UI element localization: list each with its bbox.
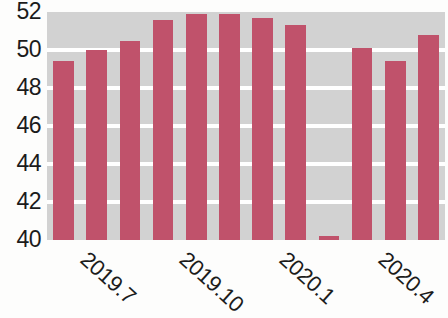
plot-area	[47, 12, 445, 240]
bar	[120, 41, 141, 241]
x-axis: 2019.72019.102020.12020.4	[47, 240, 445, 318]
bar	[219, 14, 240, 240]
bar	[385, 61, 406, 240]
y-axis-tick-label: 52	[0, 0, 41, 23]
y-axis-tick-label: 50	[0, 38, 41, 61]
bar	[252, 18, 273, 240]
y-axis: 40424446485052	[0, 0, 44, 318]
bar	[153, 20, 174, 240]
y-axis-tick-label: 44	[0, 152, 41, 175]
y-axis-tick-label: 42	[0, 190, 41, 213]
x-axis-tick-label: 2020.1	[275, 248, 338, 308]
x-axis-tick-label: 2019.10	[176, 248, 248, 316]
bar	[352, 48, 373, 240]
bar-series	[47, 12, 445, 240]
y-axis-tick-label: 48	[0, 76, 41, 99]
bar-chart-figure: 40424446485052 2019.72019.102020.12020.4	[0, 0, 448, 318]
y-axis-tick-label: 40	[0, 228, 41, 251]
y-axis-tick-label: 46	[0, 114, 41, 137]
bar	[285, 25, 306, 240]
bar	[186, 14, 207, 240]
bar	[53, 61, 74, 240]
x-axis-tick-label: 2020.4	[375, 248, 438, 308]
bar	[418, 35, 439, 240]
x-axis-tick-label: 2019.7	[76, 248, 139, 308]
bar	[86, 50, 107, 240]
